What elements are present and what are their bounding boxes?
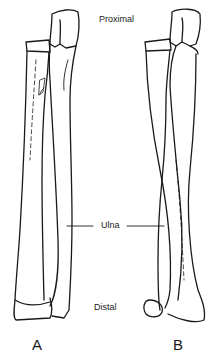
- label-ulna: Ulna: [101, 220, 120, 230]
- label-panel-a: A: [32, 336, 42, 353]
- panel-b-ulna: [168, 9, 205, 321]
- panel-a-ulna: [49, 10, 79, 318]
- panel-b-radius: [144, 39, 171, 317]
- label-proximal: Proximal: [99, 14, 134, 24]
- label-panel-b: B: [173, 336, 183, 353]
- label-distal: Distal: [94, 302, 117, 312]
- panel-a-radius: [14, 40, 52, 320]
